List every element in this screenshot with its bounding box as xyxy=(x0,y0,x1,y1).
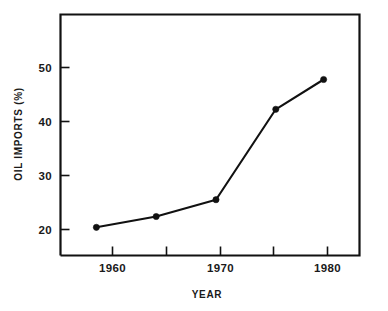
data-series-oil-imports xyxy=(93,76,326,230)
chart-canvas: 50 40 30 20 1960 1970 1980 YEAR OIL IMPO… xyxy=(0,0,388,311)
data-point xyxy=(213,197,219,203)
x-tick-label-1960: 1960 xyxy=(99,262,126,274)
data-point xyxy=(273,106,279,112)
y-axis-title: OIL IMPORTS (%) xyxy=(13,87,24,181)
x-axis-ticks xyxy=(113,247,328,256)
data-point xyxy=(93,224,99,230)
y-axis-ticks xyxy=(61,68,70,230)
y-tick-label-40: 40 xyxy=(39,116,52,128)
y-tick-label-30: 30 xyxy=(39,170,52,182)
y-tick-label-20: 20 xyxy=(39,224,52,236)
series-line xyxy=(96,79,323,227)
plot-frame xyxy=(61,15,360,256)
data-point xyxy=(153,213,159,219)
x-tick-label-1970: 1970 xyxy=(207,262,234,274)
x-axis-title: YEAR xyxy=(192,289,223,300)
y-tick-label-50: 50 xyxy=(39,62,52,74)
x-tick-label-1980: 1980 xyxy=(314,262,341,274)
data-point xyxy=(321,76,327,82)
line-chart: 50 40 30 20 1960 1970 1980 YEAR OIL IMPO… xyxy=(0,0,388,311)
